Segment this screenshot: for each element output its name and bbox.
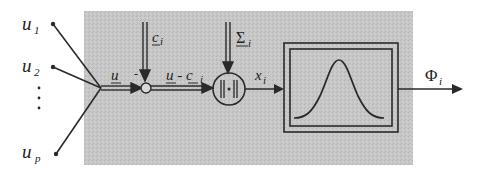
svg-text:Φ: Φ — [425, 66, 437, 85]
svg-text:u: u — [22, 55, 32, 76]
summing-node — [141, 83, 151, 93]
svg-text:i: i — [248, 37, 251, 49]
label-phi-i: Φ i — [425, 66, 442, 87]
svg-text:c: c — [152, 29, 159, 45]
svg-text:i: i — [439, 75, 442, 87]
rbf-neuron-diagram: u 1 u 2 u p u c i — [0, 0, 491, 170]
input-u1: u 1 — [22, 13, 55, 36]
svg-text:u: u — [111, 67, 119, 83]
svg-text:i: i — [160, 35, 163, 47]
svg-text:u - c: u - c — [166, 67, 193, 83]
svg-text:2: 2 — [34, 66, 40, 78]
input-u2: u 2 — [22, 55, 55, 78]
svg-text:x: x — [254, 67, 262, 83]
input-ellipsis — [38, 87, 41, 110]
svg-text:u: u — [22, 13, 32, 34]
svg-text:i: i — [200, 73, 203, 85]
svg-text:u: u — [22, 141, 32, 162]
svg-text:i: i — [263, 74, 266, 86]
svg-text:1: 1 — [34, 24, 40, 36]
svg-text:Σ: Σ — [236, 29, 245, 46]
svg-text:p: p — [34, 152, 41, 164]
input-up: u p — [22, 141, 58, 164]
minus-sign: - — [134, 67, 138, 81]
